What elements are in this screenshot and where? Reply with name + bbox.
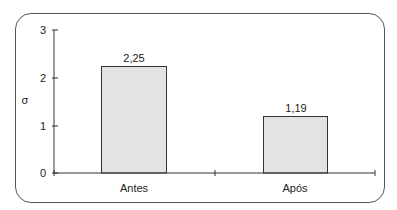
category-label-apos: Após [282,182,308,194]
y-tick-label: 3 [40,24,46,36]
value-label-antes: 2,25 [123,52,144,64]
value-label-apos: 1,19 [285,102,306,114]
y-tick-label: 0 [40,167,46,179]
bar-chart: 3 2 1 0 σ 2,25 1,19 Antes Após [0,0,397,210]
category-label-antes: Antes [120,182,149,194]
y-tick-label: 2 [40,72,46,84]
y-tick-label: 1 [40,120,46,132]
y-axis-label: σ [22,94,29,106]
bar-antes [102,67,167,174]
bar-apos [264,117,328,174]
